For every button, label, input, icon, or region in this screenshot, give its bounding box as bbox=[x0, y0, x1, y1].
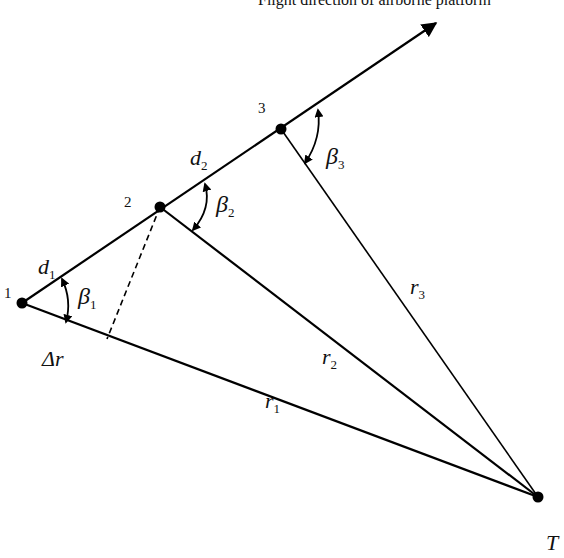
point-3-label: 3 bbox=[258, 100, 266, 116]
r1-label: r1 bbox=[265, 388, 280, 416]
range-line-r1 bbox=[22, 303, 538, 497]
point-1-marker bbox=[17, 298, 28, 309]
target-label: T bbox=[546, 530, 560, 555]
point-2-marker bbox=[155, 202, 166, 213]
beta2-label: β2 bbox=[215, 191, 234, 220]
range-line-r2 bbox=[160, 207, 538, 497]
angle-arc-beta2 bbox=[193, 184, 207, 230]
point-2-label: 2 bbox=[124, 194, 132, 210]
angle-arc-beta3 bbox=[305, 110, 319, 163]
r3-label: r3 bbox=[410, 274, 425, 302]
d1-label: d1 bbox=[38, 254, 56, 282]
point-1-label: 1 bbox=[4, 285, 12, 301]
delta-r-label: Δr bbox=[41, 346, 64, 371]
angle-arc-beta1 bbox=[62, 279, 68, 322]
range-line-r3 bbox=[281, 129, 538, 497]
d2-label: d2 bbox=[190, 145, 208, 173]
point-3-marker bbox=[276, 124, 287, 135]
beta1-label: β1 bbox=[77, 283, 96, 312]
beta3-label: β3 bbox=[325, 143, 344, 172]
r2-label: r2 bbox=[322, 344, 337, 372]
target-marker bbox=[533, 492, 544, 503]
